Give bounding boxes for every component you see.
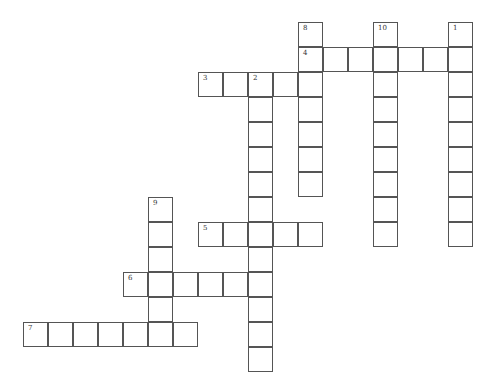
crossword-cell[interactable] [298,172,323,197]
crossword-cell[interactable] [298,122,323,147]
crossword-cell[interactable] [248,247,273,272]
crossword-cell[interactable]: 8 [298,22,323,47]
crossword-cell[interactable] [123,322,148,347]
crossword-cell[interactable] [223,272,248,297]
crossword-cell[interactable] [148,222,173,247]
crossword-cell[interactable] [373,72,398,97]
crossword-cell[interactable] [248,97,273,122]
crossword-cell[interactable] [398,47,423,72]
crossword-cell[interactable] [448,222,473,247]
crossword-cell[interactable]: 2 [248,72,273,97]
clue-number: 3 [203,75,207,82]
crossword-cell[interactable] [448,72,473,97]
crossword-cell[interactable] [323,47,348,72]
crossword-cell[interactable]: 10 [373,22,398,47]
clue-number: 6 [128,275,132,282]
crossword-cell[interactable] [448,197,473,222]
crossword-cell[interactable] [173,272,198,297]
crossword-cell[interactable] [248,197,273,222]
crossword-cell[interactable] [98,322,123,347]
crossword-cell[interactable] [373,197,398,222]
clue-number: 1 [453,25,457,32]
crossword-cell[interactable] [373,147,398,172]
crossword-cell[interactable] [373,172,398,197]
crossword-cell[interactable] [248,222,273,247]
crossword-cell[interactable] [148,322,173,347]
crossword-cell[interactable] [248,322,273,347]
crossword-cell[interactable] [298,72,323,97]
crossword-cell[interactable]: 6 [123,272,148,297]
crossword-cell[interactable] [273,72,298,97]
crossword-cell[interactable] [223,222,248,247]
crossword-cell[interactable] [448,147,473,172]
crossword-cell[interactable] [448,47,473,72]
crossword-cell[interactable] [248,272,273,297]
crossword-cell[interactable]: 9 [148,197,173,222]
crossword-cell[interactable]: 7 [23,322,48,347]
clue-number: 4 [303,50,307,57]
crossword-cell[interactable] [348,47,373,72]
crossword-cell[interactable] [298,147,323,172]
crossword-cell[interactable] [373,97,398,122]
crossword-cell[interactable] [298,222,323,247]
crossword-cell[interactable] [448,122,473,147]
clue-number: 10 [378,25,387,32]
crossword-cell[interactable] [148,297,173,322]
crossword-cell[interactable]: 4 [298,47,323,72]
clue-number: 7 [28,325,32,332]
crossword-cell[interactable] [248,147,273,172]
crossword-cell[interactable] [448,97,473,122]
crossword-cell[interactable]: 3 [198,72,223,97]
crossword-cell[interactable]: 1 [448,22,473,47]
crossword-cell[interactable] [148,247,173,272]
crossword-cell[interactable] [373,222,398,247]
crossword-cell[interactable] [48,322,73,347]
crossword-cell[interactable] [73,322,98,347]
crossword-cell[interactable] [248,297,273,322]
crossword-cell[interactable] [423,47,448,72]
crossword-cell[interactable]: 5 [198,222,223,247]
crossword-cell[interactable] [448,172,473,197]
crossword-cell[interactable] [373,47,398,72]
clue-number: 5 [203,225,207,232]
crossword-cell[interactable] [298,97,323,122]
crossword-cell[interactable] [173,322,198,347]
clue-number: 8 [303,25,307,32]
crossword-cell[interactable] [273,222,298,247]
crossword-cell[interactable] [248,347,273,372]
crossword-cell[interactable] [198,272,223,297]
clue-number: 9 [153,200,157,207]
crossword-cell[interactable] [248,122,273,147]
crossword-cell[interactable] [223,72,248,97]
crossword-cell[interactable] [373,122,398,147]
clue-number: 2 [253,75,257,82]
crossword-cell[interactable] [148,272,173,297]
crossword-cell[interactable] [248,172,273,197]
